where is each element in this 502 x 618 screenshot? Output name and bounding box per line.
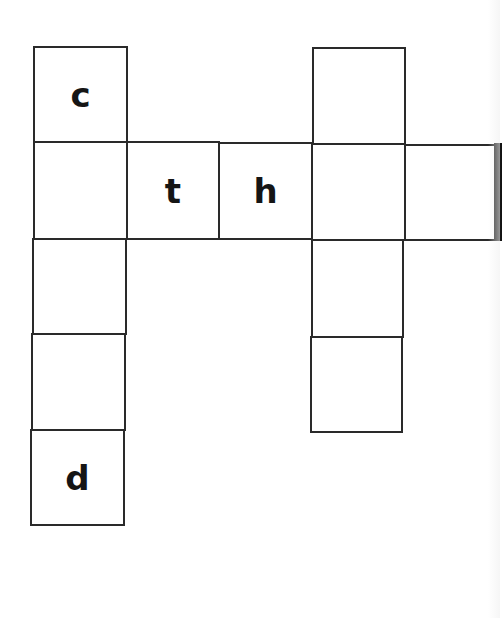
cell-letter: d: [65, 461, 89, 495]
grid-cell[interactable]: h: [218, 142, 313, 240]
grid-cell[interactable]: d: [30, 429, 125, 526]
grid-cell[interactable]: [404, 144, 496, 241]
grid-cell[interactable]: t: [126, 141, 220, 240]
grid-cell[interactable]: [32, 238, 127, 335]
grid-cell[interactable]: [31, 333, 126, 431]
grid-cell[interactable]: [310, 336, 403, 433]
grid-cell[interactable]: [311, 143, 406, 241]
grid-cell[interactable]: c: [33, 46, 128, 143]
cell-letter: t: [165, 174, 181, 208]
cell-letter: h: [253, 174, 277, 208]
page-edge-shadow: [494, 143, 502, 241]
cell-letter: c: [70, 78, 90, 112]
grid-cell[interactable]: [33, 141, 128, 240]
page-edge-fade: [488, 0, 500, 618]
grid-cell[interactable]: [312, 47, 406, 145]
grid-cell[interactable]: [311, 239, 404, 338]
